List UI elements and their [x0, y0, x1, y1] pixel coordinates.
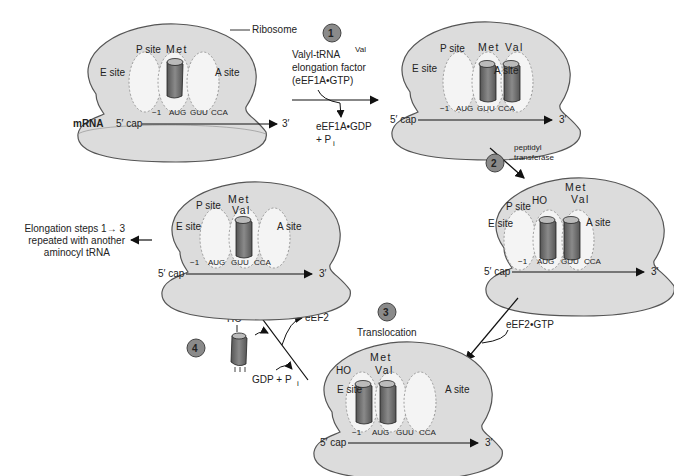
step-number: 4 [192, 343, 198, 354]
e-site-label: E site [100, 67, 125, 78]
ribosome-state-5 [162, 182, 350, 320]
p-site-label: P site [506, 201, 531, 212]
codon-label: −1 [352, 428, 362, 437]
ribosome-state-4 [314, 342, 502, 476]
step1-input-line3: (eEF1A•GTP) [292, 75, 353, 86]
repeat-note-line2: repeated with another [28, 235, 125, 246]
codon-label: CCA [254, 258, 272, 267]
met-label: Met [166, 43, 188, 55]
step1-input-line2: elongation factor [292, 62, 367, 73]
superscript: Val [355, 45, 366, 54]
three-prime-label: 3′ [651, 266, 659, 277]
codon-label: GUU [477, 104, 495, 113]
p-site-label: P site [136, 44, 161, 55]
cap-label: 5′ cap [116, 118, 143, 129]
three-prime-label: 3′ [319, 268, 327, 279]
codon-label: AUG [537, 257, 554, 266]
step-number: 2 [491, 158, 497, 169]
a-site-label: A site [586, 217, 611, 228]
met-label: Met [565, 181, 587, 193]
codon-label: CCA [584, 257, 602, 266]
val-label: Val [571, 193, 590, 205]
subscript: i [297, 379, 299, 388]
step1-input: Valyl-tRNA [292, 49, 340, 60]
a-site-label: A site [215, 67, 240, 78]
met-label: Met [478, 41, 500, 53]
e-site-label: E site [337, 384, 362, 395]
step2-label-line2: transferase [514, 153, 555, 162]
a-site-label: A site [277, 221, 302, 232]
codon-label: −1 [190, 258, 200, 267]
codon-label: AUG [169, 108, 186, 117]
codon-label: GUU [396, 428, 414, 437]
codon-label: CCA [211, 108, 229, 117]
e-site-label: E site [412, 63, 437, 74]
repeat-note-line3: aminocyl tRNA [44, 247, 110, 258]
p-site-label: P site [196, 200, 221, 211]
codon-label: −1 [152, 108, 162, 117]
a-site-label: A site [445, 384, 470, 395]
codon-label: −1 [518, 257, 528, 266]
step3-input: eEF2•GTP [506, 319, 554, 330]
elongation-diagram: E site P site Met A site Ribosome mRNA 5… [0, 0, 674, 476]
codon-label: GUU [231, 258, 249, 267]
val-label: Val [232, 204, 251, 216]
three-prime-label: 3′ [559, 114, 567, 125]
step-number: 3 [383, 307, 389, 318]
codon-label: −1 [440, 104, 450, 113]
gdp-label: GDP + P [252, 374, 292, 385]
step1-output: eEF1A•GDP [316, 121, 372, 132]
codon-label: AUG [456, 104, 473, 113]
subscript: i [333, 139, 335, 148]
three-prime-label: 3′ [485, 437, 493, 448]
e-site-label: E site [488, 218, 513, 229]
step2-label: peptidyl [514, 143, 542, 152]
ribosome-label: Ribosome [252, 24, 297, 35]
codon-label: CCA [498, 104, 516, 113]
val-label: Val [505, 41, 524, 53]
cap-label: 5′ cap [484, 266, 511, 277]
p-site-label: P site [440, 43, 465, 54]
codon-label: AUG [208, 258, 225, 267]
cap-label: 5′ cap [320, 437, 347, 448]
cap-label: 5′ cap [390, 114, 417, 125]
cap-label: 5′ cap [158, 268, 185, 279]
step3-label: Translocation [357, 327, 417, 338]
a-site-label: A site [494, 65, 519, 76]
codon-label: GUU [561, 257, 579, 266]
val-label: Val [375, 364, 394, 376]
e-site-label: E site [176, 221, 201, 232]
mrna-label: mRNA [73, 118, 104, 129]
step-number: 1 [328, 28, 334, 39]
repeat-note-line1: Elongation steps 1→ 3 [24, 223, 125, 234]
step1-output-line2: + P [316, 134, 332, 145]
codon-label: GUU [190, 108, 208, 117]
met-label: Met [370, 351, 392, 363]
codon-label: CCA [419, 428, 437, 437]
three-prime-label: 3′ [282, 118, 290, 129]
ho-label: HO [532, 195, 547, 206]
ho-label: HO [336, 365, 351, 376]
codon-label: AUG [372, 428, 389, 437]
